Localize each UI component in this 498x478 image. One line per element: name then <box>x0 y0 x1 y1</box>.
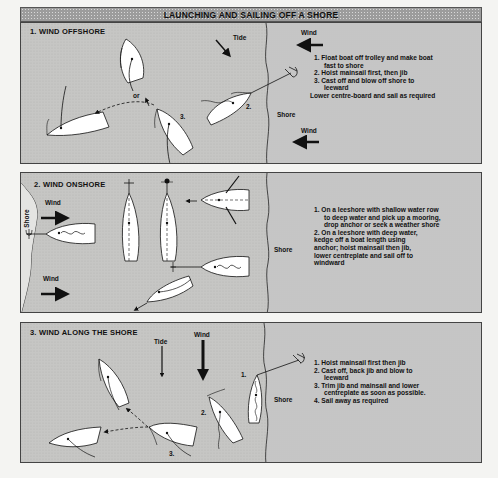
tide-label: Tide <box>233 34 246 41</box>
step-text: centreplate as soon as possible. <box>314 389 426 397</box>
title-bar: LAUNCHING AND SAILING OFF A SHORE <box>20 7 482 22</box>
step-text: windward <box>314 259 441 267</box>
wind-label: Wind <box>43 275 59 282</box>
step-text: 2. Hoist mainsail first, then jib <box>314 69 435 77</box>
wind-label: Wind <box>45 199 61 206</box>
boat-number-label: 1. <box>241 371 246 378</box>
wind-label: Wind <box>194 331 210 338</box>
step-text: to deep water and pick up a mooring, <box>314 214 441 222</box>
shore-label: Shore <box>23 209 30 227</box>
step-text: 2. Cast off, back jib and blow to <box>314 367 426 375</box>
step-text: anchor; hoist mainsail then jib, <box>314 244 441 252</box>
step-text: 4. Sail away as required <box>314 397 426 405</box>
step-text: leeward <box>314 374 426 382</box>
step-text: drop anchor or seek a weather shore <box>314 221 441 229</box>
or-label: or <box>133 92 140 99</box>
wind-label: Wind <box>301 127 317 134</box>
diagram-title: LAUNCHING AND SAILING OFF A SHORE <box>164 10 339 20</box>
panel-1-steps: 1. Float boat off trolley and make boat … <box>314 54 435 100</box>
shore-label: Shore <box>277 111 295 118</box>
step-text: leeward <box>314 84 435 92</box>
tide-label: Tide <box>154 338 167 345</box>
step-text: 1. Float boat off trolley and make boat <box>314 54 435 62</box>
boat-number-label: 2. <box>201 409 206 416</box>
step-text: Lower centre-board and sail as required <box>310 92 435 100</box>
step-text: 2. On a leeshore with deep water, <box>314 229 441 237</box>
step-text: kedge off a boat length using <box>314 236 441 244</box>
step-text: 1. On a leeshore with shallow water row <box>314 206 441 214</box>
step-text: 3. Cast off and blow off shore to <box>314 77 435 85</box>
panel-1-heading: 1. WIND OFFSHORE <box>30 27 105 36</box>
step-text: lower centreplate and sail off to <box>314 252 441 260</box>
shore-label: Shore <box>274 246 292 253</box>
panel-3-heading: 3. WIND ALONG THE SHORE <box>30 328 138 337</box>
boat-number-label: 2. <box>246 103 251 110</box>
step-text: fast to shore <box>314 62 435 70</box>
boat-number-label: 3. <box>180 113 185 120</box>
wind-label: Wind <box>301 29 317 36</box>
panel-wind-offshore: 1. WIND OFFSHORE Tide Wind Wind Shore or… <box>20 22 482 164</box>
shore-label: Shore <box>274 396 292 403</box>
step-text: 1. Hoist mainsail first then jib <box>314 359 426 367</box>
mooring-buoy-icon <box>165 179 170 184</box>
panel-2-heading: 2. WIND ONSHORE <box>34 180 105 189</box>
boat-number-label: 3. <box>169 450 174 457</box>
panel-wind-along-shore: 3. WIND ALONG THE SHORE Tide Wind Shore … <box>20 322 482 463</box>
panel-wind-onshore: 2. WIND ONSHORE Shore Wind Wind Shore 1.… <box>20 172 482 313</box>
step-text: 3. Trim jib and mainsail and lower <box>314 382 426 390</box>
panel-3-steps: 1. Hoist mainsail first then jib 2. Cast… <box>314 359 426 405</box>
panel-2-steps: 1. On a leeshore with shallow water row … <box>314 206 441 267</box>
